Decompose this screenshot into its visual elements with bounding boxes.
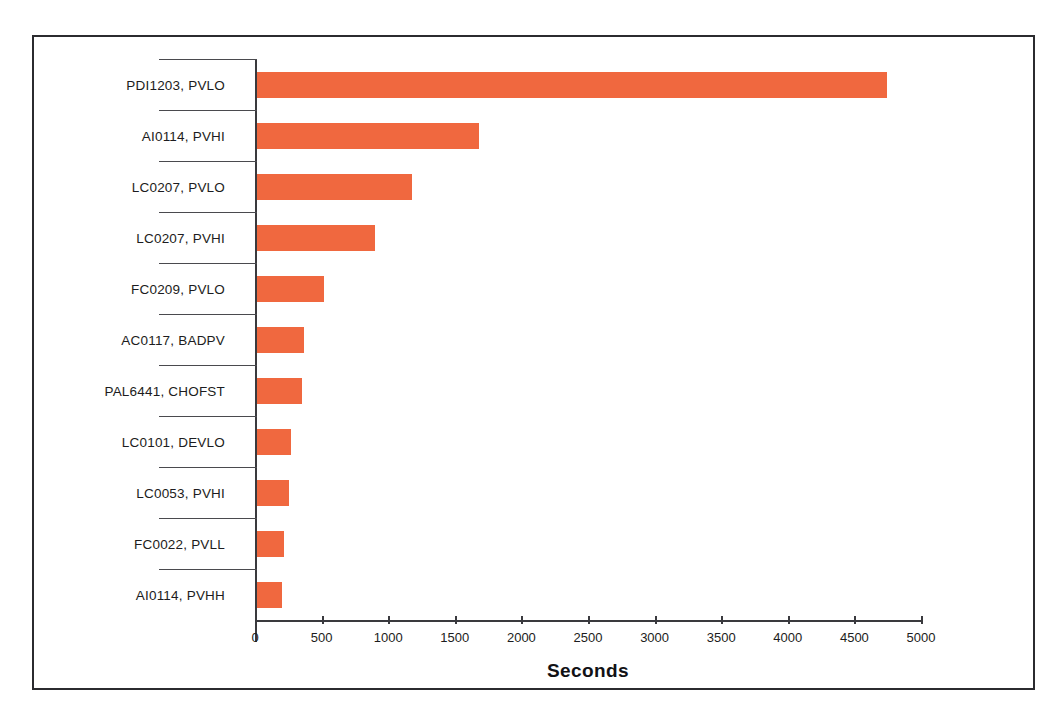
- category-label: LC0207, PVHI: [136, 230, 225, 245]
- x-tick-label: 0: [251, 630, 258, 645]
- bar-row: AI0114, PVHH: [34, 569, 1033, 620]
- category-separator-tick: [159, 59, 257, 60]
- bar-chart-plot-area: PDI1203, PVLOAI0114, PVHILC0207, PVLOLC0…: [34, 37, 1033, 688]
- x-tick-mark: [921, 616, 923, 624]
- x-tick-label: 5000: [907, 630, 936, 645]
- category-label: PDI1203, PVLO: [126, 77, 225, 92]
- bar-track: [257, 480, 289, 506]
- x-tick-mark: [788, 616, 790, 624]
- category-label: PAL6441, CHOFST: [104, 383, 225, 398]
- x-tick-mark: [721, 616, 723, 624]
- category-separator-tick: [159, 365, 257, 366]
- bar-track: [257, 429, 291, 455]
- category-label: FC0022, PVLL: [134, 536, 225, 551]
- bar: [257, 429, 291, 455]
- bar: [257, 276, 324, 302]
- x-tick-mark: [655, 616, 657, 624]
- x-tick-label: 2500: [574, 630, 603, 645]
- bar-track: [257, 123, 479, 149]
- category-separator-tick: [159, 161, 257, 162]
- bar-track: [257, 225, 375, 251]
- bar-row: FC0209, PVLO: [34, 263, 1033, 314]
- x-tick-mark: [388, 616, 390, 624]
- category-label: AC0117, BADPV: [121, 332, 225, 347]
- bar-row: FC0022, PVLL: [34, 518, 1033, 569]
- bar-track: [257, 531, 284, 557]
- category-label: FC0209, PVLO: [131, 281, 225, 296]
- bar-track: [257, 327, 304, 353]
- bar-rows: PDI1203, PVLOAI0114, PVHILC0207, PVLOLC0…: [34, 59, 1033, 620]
- x-tick-label: 1000: [374, 630, 403, 645]
- category-separator-tick: [159, 467, 257, 468]
- x-tick-label: 1500: [440, 630, 469, 645]
- x-tick-label: 2000: [507, 630, 536, 645]
- category-separator-tick: [159, 212, 257, 213]
- bar-track: [257, 276, 324, 302]
- bar-row: LC0053, PVHI: [34, 467, 1033, 518]
- category-separator-tick: [159, 416, 257, 417]
- bar-track: [257, 378, 302, 404]
- category-separator-tick: [159, 314, 257, 315]
- x-tick-label: 3000: [640, 630, 669, 645]
- x-tick-label: 4500: [840, 630, 869, 645]
- category-label: AI0114, PVHI: [142, 128, 225, 143]
- category-label: LC0053, PVHI: [136, 485, 225, 500]
- bar-row: AC0117, BADPV: [34, 314, 1033, 365]
- bar-row: LC0101, DEVLO: [34, 416, 1033, 467]
- bar: [257, 174, 412, 200]
- bar-track: [257, 72, 887, 98]
- chart-frame: PDI1203, PVLOAI0114, PVHILC0207, PVLOLC0…: [32, 35, 1035, 690]
- bar: [257, 582, 282, 608]
- bar: [257, 327, 304, 353]
- bar-row: AI0114, PVHI: [34, 110, 1033, 161]
- bar-row: PDI1203, PVLO: [34, 59, 1033, 110]
- bar: [257, 480, 289, 506]
- category-label: LC0207, PVLO: [132, 179, 225, 194]
- x-tick-mark: [255, 616, 257, 624]
- x-tick-mark: [588, 616, 590, 624]
- x-tick-label: 500: [311, 630, 333, 645]
- x-tick-mark: [854, 616, 856, 624]
- category-separator-tick: [159, 518, 257, 519]
- bar: [257, 378, 302, 404]
- category-label: LC0101, DEVLO: [122, 434, 225, 449]
- bar: [257, 123, 479, 149]
- bar-row: LC0207, PVLO: [34, 161, 1033, 212]
- bar-track: [257, 582, 282, 608]
- category-separator-tick: [159, 263, 257, 264]
- x-tick-mark: [322, 616, 324, 624]
- bar-row: PAL6441, CHOFST: [34, 365, 1033, 416]
- x-axis-title: Seconds: [255, 660, 921, 682]
- x-tick-mark: [455, 616, 457, 624]
- category-separator-tick: [159, 110, 257, 111]
- x-tick-mark: [521, 616, 523, 624]
- x-tick-label: 3500: [707, 630, 736, 645]
- bar: [257, 72, 887, 98]
- category-label: AI0114, PVHH: [136, 587, 225, 602]
- bar-track: [257, 174, 412, 200]
- bar: [257, 531, 284, 557]
- bar-row: LC0207, PVHI: [34, 212, 1033, 263]
- x-tick-label: 4000: [773, 630, 802, 645]
- category-separator-tick: [159, 569, 257, 570]
- bar: [257, 225, 375, 251]
